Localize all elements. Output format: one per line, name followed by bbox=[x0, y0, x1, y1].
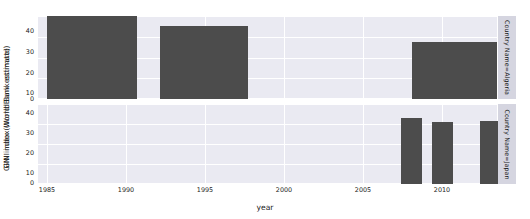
bar-algeria-1988 bbox=[47, 16, 137, 99]
gridline-x-2000 bbox=[284, 104, 285, 184]
xtick-2000: 2000 bbox=[264, 186, 304, 194]
gridline-y-10 bbox=[38, 164, 497, 165]
gridline-x-2005 bbox=[363, 104, 364, 184]
facet-label-algeria-text: Country Name=Algeria bbox=[504, 20, 511, 95]
facet-panel-japan bbox=[38, 104, 497, 184]
x-axis-label: year bbox=[0, 203, 530, 212]
bar-japan-2008 bbox=[401, 118, 422, 184]
gridline-y-30 bbox=[38, 124, 497, 125]
xtick-2005: 2005 bbox=[343, 186, 383, 194]
gridline-y-0 bbox=[38, 183, 497, 184]
facet-panel-algeria bbox=[38, 16, 497, 99]
ytick-top-40: 40 bbox=[4, 28, 34, 34]
gridline-x-2000 bbox=[284, 16, 285, 99]
gridline-y-20 bbox=[38, 144, 497, 145]
xtick-2010: 2010 bbox=[422, 186, 462, 194]
facet-label-japan: Country Name=Japan bbox=[498, 104, 516, 184]
ytick-top-30: 30 bbox=[4, 49, 34, 55]
xtick-1995: 1995 bbox=[185, 186, 225, 194]
gridline-x-1985 bbox=[47, 104, 48, 184]
gridline-x-1990 bbox=[126, 104, 127, 184]
facet-label-japan-text: Country Name=Japan bbox=[504, 109, 511, 179]
xtick-1985: 1985 bbox=[27, 186, 67, 194]
facet-label-algeria: Country Name=Algeria bbox=[498, 16, 516, 99]
bar-japan-2010 bbox=[432, 122, 453, 184]
ytick-top-20: 20 bbox=[4, 70, 34, 76]
ytick-bottom-40: 40 bbox=[4, 110, 34, 116]
gridline-x-2005 bbox=[363, 16, 364, 99]
ytick-bottom-10: 10 bbox=[4, 170, 34, 176]
xtick-1990: 1990 bbox=[106, 186, 146, 194]
ytick-bottom-30: 30 bbox=[4, 130, 34, 136]
chart-canvas: GINI index (World Bank estimate) GINI in… bbox=[0, 0, 530, 219]
gridline-x-1995 bbox=[205, 104, 206, 184]
bar-algeria-1995 bbox=[160, 26, 248, 99]
gridline-y-40 bbox=[38, 104, 497, 105]
bar-algeria-2011 bbox=[412, 42, 497, 99]
ytick-bottom-20: 20 bbox=[4, 150, 34, 156]
ytick-top-0: 0 bbox=[4, 96, 34, 102]
